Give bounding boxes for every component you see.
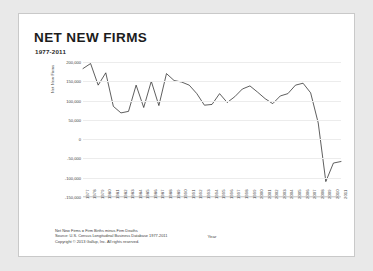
x-axis-tick-label: 1984 [138, 189, 143, 199]
y-axis-tick-label: 150,000 [39, 79, 81, 84]
y-axis-ticks: 200,000150,000100,00050,0000-50,000-100,… [33, 62, 81, 197]
x-axis-tick-label: 2006 [305, 189, 310, 199]
chart-container: Net New Firms 200,000150,000100,00050,00… [33, 62, 341, 222]
gridline [83, 139, 341, 140]
y-axis-tick-label: 100,000 [39, 98, 81, 103]
x-axis-tick-label: 1992 [198, 189, 203, 199]
x-axis-tick-label: 1993 [206, 189, 211, 199]
gridline [83, 81, 341, 82]
y-axis-tick-label: 200,000 [39, 60, 81, 65]
gridline [83, 101, 341, 102]
x-axis-tick-label: 2002 [274, 189, 279, 199]
gridline [83, 62, 341, 63]
plot-area [83, 62, 341, 197]
y-axis-tick-label: -150,000 [39, 195, 81, 200]
x-axis-tick-label: 1998 [244, 189, 249, 199]
y-axis-tick-label: -50,000 [39, 156, 81, 161]
x-axis-tick-label: 1981 [115, 189, 120, 199]
y-axis-tick-label: -100,000 [39, 175, 81, 180]
x-axis-tick-label: 1982 [123, 189, 128, 199]
x-axis-tick-label: 1994 [214, 189, 219, 199]
gridline [83, 197, 341, 198]
footnotes: Net New Firms = Firm Births minus Firm D… [55, 228, 305, 244]
x-axis-tick-label: 2010 [335, 189, 340, 199]
page-title: NET NEW FIRMS [34, 30, 147, 45]
x-axis-tick-label: 1989 [176, 189, 181, 199]
x-axis-tick-label: 1985 [145, 189, 150, 199]
y-axis-tick-label: 50,000 [39, 117, 81, 122]
x-axis-tick-label: 1983 [130, 189, 135, 199]
x-axis-tick-label: 1995 [221, 189, 226, 199]
x-axis-tick-label: 1987 [160, 189, 165, 199]
x-axis-tick-label: 2003 [282, 189, 287, 199]
x-axis-tick-label: 2007 [312, 189, 317, 199]
gridline [83, 178, 341, 179]
x-axis-tick-label: 1978 [92, 189, 97, 199]
x-axis-tick-label: 1980 [107, 189, 112, 199]
x-axis-tick-label: 2011 [343, 190, 348, 199]
x-axis-tick-label: 2008 [320, 189, 325, 199]
x-axis-tick-label: 1997 [236, 189, 241, 199]
x-axis-tick-label: 1977 [85, 189, 90, 199]
x-axis-tick-label: 2005 [297, 189, 302, 199]
x-axis-tick-label: 1999 [252, 189, 257, 199]
slide-card: NET NEW FIRMS 1977-2011 Net New Firms 20… [18, 13, 355, 257]
x-axis-tick-label: 1988 [168, 189, 173, 199]
gridline [83, 120, 341, 121]
footnote-line: Copyright © 2013 Gallup, Inc. All rights… [55, 239, 305, 244]
x-axis-tick-label: 1986 [153, 189, 158, 199]
x-axis-tick-label: 1991 [191, 189, 196, 199]
x-axis-tick-label: 2000 [259, 189, 264, 199]
x-axis-tick-label: 1996 [229, 189, 234, 199]
x-axis-tick-label: 2009 [327, 189, 332, 199]
x-axis-tick-label: 1979 [100, 189, 105, 199]
x-axis-tick-label: 2004 [289, 189, 294, 199]
x-axis-tick-label: 1990 [183, 189, 188, 199]
x-axis-tick-label: 2001 [267, 189, 272, 199]
gridline [83, 158, 341, 159]
y-axis-tick-label: 0 [39, 137, 81, 142]
